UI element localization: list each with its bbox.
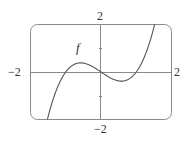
x-max-label: 2 <box>174 66 180 78</box>
y-max-label: 2 <box>97 10 103 22</box>
x-min-label: −2 <box>8 66 21 78</box>
y-min-label: −2 <box>94 123 107 135</box>
function-label-f: f <box>76 42 80 54</box>
